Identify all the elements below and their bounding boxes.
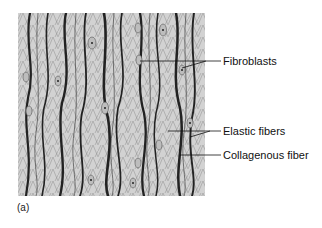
figure-caption: (a) (17, 202, 29, 213)
tissue-illustration (18, 13, 205, 196)
label-collagenous-fiber: Collagenous fiber (223, 149, 309, 161)
fiber-drawing (18, 13, 205, 196)
label-fibroblasts: Fibroblasts (223, 55, 277, 67)
label-elastic-fibers: Elastic fibers (223, 125, 285, 137)
